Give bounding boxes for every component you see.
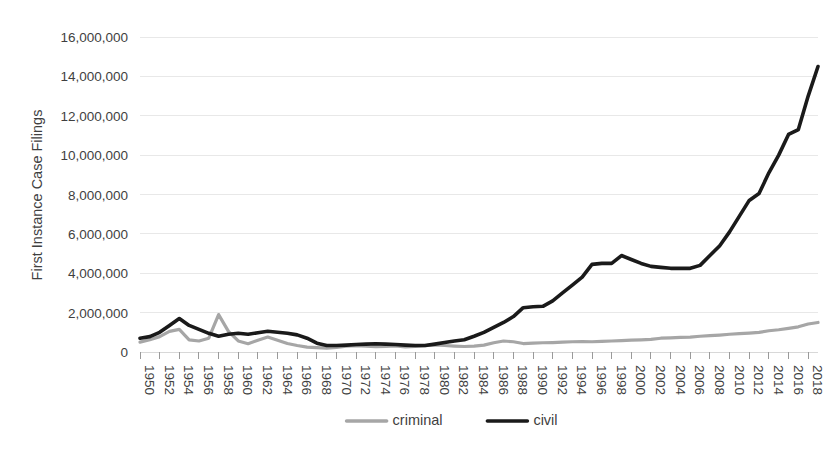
legend-label-criminal: criminal: [393, 412, 443, 428]
x-axis-tick-label: 2008: [712, 365, 727, 395]
x-axis-tick-label: 2014: [771, 365, 786, 396]
x-axis-tick-label: 1996: [594, 365, 609, 395]
x-axis-tick-label: 1984: [476, 365, 491, 396]
legend-label-civil: civil: [533, 412, 557, 428]
series-line-civil: [140, 67, 818, 346]
x-axis-tick-label: 1960: [240, 365, 255, 395]
x-axis-tick-label: 2006: [692, 365, 707, 395]
x-axis-tick-label: 1974: [378, 365, 393, 396]
gridlines-group: [140, 37, 818, 352]
x-axis-tick-label: 1962: [260, 365, 275, 395]
y-axis-tick-label: 2,000,000: [68, 306, 128, 321]
x-axis-tick-label: 1976: [397, 365, 412, 395]
x-axis-tick-label: 1986: [496, 365, 511, 395]
x-axis-tick-label: 2002: [653, 365, 668, 395]
x-axis-tick-label: 1972: [358, 365, 373, 395]
x-axis-tick-label: 2000: [633, 365, 648, 395]
y-axis-tick-label: 6,000,000: [68, 227, 128, 242]
x-axis-tick-labels: 1950195219541956195819601962196419661968…: [142, 365, 825, 396]
x-axis-tick-label: 1964: [280, 365, 295, 396]
series-line-criminal: [140, 315, 818, 348]
y-axis-tick-label: 8,000,000: [68, 188, 128, 203]
x-axis-tick-label: 1982: [456, 365, 471, 395]
x-axis-tick-label: 2016: [791, 365, 806, 395]
y-axis-tick-label: 4,000,000: [68, 266, 128, 281]
chart-container: 02,000,0004,000,0006,000,0008,000,00010,…: [0, 0, 827, 450]
x-axis-tick-label: 1998: [614, 365, 629, 395]
y-axis-tick-label: 0: [120, 345, 128, 360]
x-axis-tick-label: 1952: [162, 365, 177, 395]
y-axis-tick-label: 16,000,000: [60, 30, 128, 45]
y-axis-tick-label: 10,000,000: [60, 148, 128, 163]
y-axis-tick-labels: 02,000,0004,000,0006,000,0008,000,00010,…: [60, 30, 128, 360]
x-axis-tick-label: 1958: [221, 365, 236, 395]
x-axis-tick-label: 1970: [339, 365, 354, 395]
x-axis-tick-label: 1990: [535, 365, 550, 395]
x-axis-tick-label: 2004: [673, 365, 688, 396]
line-chart: 02,000,0004,000,0006,000,0008,000,00010,…: [0, 0, 827, 450]
x-axis-tick-label: 1956: [201, 365, 216, 395]
x-axis-tick-label: 1988: [515, 365, 530, 395]
y-axis-title-group: First Instance Case Filings: [29, 110, 45, 281]
x-axis-tick-label: 1968: [319, 365, 334, 395]
x-axis-tick-label: 2010: [732, 365, 747, 395]
y-axis-tick-label: 12,000,000: [60, 109, 128, 124]
x-axis-tick-label: 2012: [751, 365, 766, 395]
legend: criminalcivil: [347, 412, 558, 428]
x-axis-tick-label: 1980: [437, 365, 452, 395]
x-axis-tick-label: 2018: [810, 365, 825, 395]
y-axis-title: First Instance Case Filings: [29, 110, 45, 281]
x-axis-tick-label: 1966: [299, 365, 314, 395]
y-axis-tick-label: 14,000,000: [60, 69, 128, 84]
x-axis-tickmarks: [140, 352, 808, 359]
x-axis-tick-label: 1978: [417, 365, 432, 395]
series-group: [140, 67, 818, 349]
x-axis-tick-label: 1992: [555, 365, 570, 395]
x-axis-tick-label: 1994: [574, 365, 589, 396]
x-axis-tick-label: 1954: [181, 365, 196, 396]
x-axis-tick-label: 1950: [142, 365, 157, 395]
